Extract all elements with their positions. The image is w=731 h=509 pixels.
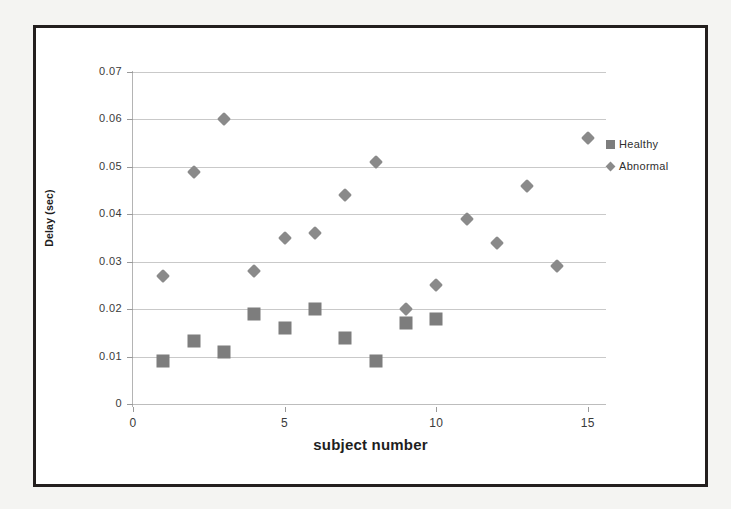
x-axis-tick [588, 407, 589, 412]
x-axis-tick-label: 10 [429, 416, 443, 430]
data-point-healthy [339, 331, 352, 344]
legend-label: Healthy [619, 138, 658, 150]
gridline [133, 214, 606, 215]
y-axis-tick-label: 0 [115, 397, 122, 409]
y-axis-tick-label: 0.06 [99, 112, 122, 124]
chart-canvas: Delay (sec) 00.010.020.030.040.050.060.0… [36, 28, 705, 484]
x-axis-tick-label: 5 [281, 416, 288, 430]
data-point-healthy [157, 355, 170, 368]
data-point-abnormal [399, 302, 413, 316]
y-axis-tick-label: 0.04 [99, 207, 122, 219]
y-axis-tick-label: 0.07 [99, 65, 122, 77]
y-axis-tick [127, 357, 133, 358]
gridline [133, 309, 606, 310]
legend-entry-abnormal: Abnormal [606, 155, 668, 177]
data-point-abnormal [278, 231, 292, 245]
x-axis-tick [133, 407, 134, 412]
data-point-abnormal [247, 264, 261, 278]
x-axis-tick [436, 407, 437, 412]
y-axis-tick-label: 0.05 [99, 160, 122, 172]
data-point-healthy [187, 334, 200, 347]
y-axis-tick-label: 0.01 [99, 350, 122, 362]
x-axis-tick [285, 407, 286, 412]
legend-label: Abnormal [619, 160, 668, 172]
y-axis-tick [127, 214, 133, 215]
data-point-healthy [430, 312, 443, 325]
figure-frame: Delay (sec) 00.010.020.030.040.050.060.0… [33, 25, 708, 487]
data-point-abnormal [338, 188, 352, 202]
data-point-healthy [308, 303, 321, 316]
data-point-healthy [278, 322, 291, 335]
gridline [133, 262, 606, 263]
data-point-healthy [399, 317, 412, 330]
y-axis-tick [127, 72, 133, 73]
y-axis-tick [127, 404, 133, 405]
diamond-marker-icon [606, 161, 616, 171]
x-axis-tick-label: 15 [581, 416, 595, 430]
data-point-abnormal [217, 112, 231, 126]
x-axis-tick-label: 0 [129, 416, 136, 430]
chart-legend: HealthyAbnormal [606, 133, 668, 177]
gridline [133, 72, 606, 73]
data-point-abnormal [308, 226, 322, 240]
y-axis-tick [127, 119, 133, 120]
y-axis-tick-labels: 00.010.020.030.040.050.060.07 [54, 28, 122, 484]
data-point-abnormal [520, 179, 534, 193]
gridline [133, 404, 606, 405]
y-axis-tick-label: 0.02 [99, 302, 122, 314]
data-point-abnormal [156, 269, 170, 283]
data-point-abnormal [581, 131, 595, 145]
data-point-healthy [248, 307, 261, 320]
gridline [133, 167, 606, 168]
plot-area [133, 72, 606, 404]
data-point-abnormal [429, 278, 443, 292]
y-axis-tick-label: 0.03 [99, 255, 122, 267]
square-marker-icon [606, 140, 615, 149]
data-point-healthy [217, 345, 230, 358]
y-axis-tick [127, 309, 133, 310]
y-axis-tick [127, 262, 133, 263]
legend-entry-healthy: Healthy [606, 133, 668, 155]
y-axis-tick [127, 167, 133, 168]
gridline [133, 119, 606, 120]
x-axis-title: subject number [36, 436, 705, 453]
data-point-healthy [369, 355, 382, 368]
data-point-abnormal [490, 236, 504, 250]
